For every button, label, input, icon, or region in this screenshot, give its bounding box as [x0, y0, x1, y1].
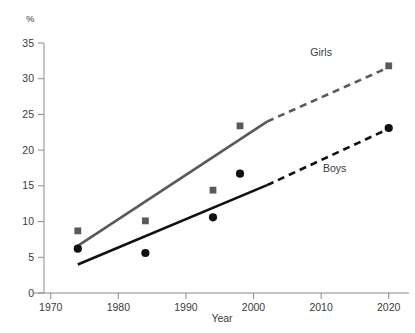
data-point-girls [237, 122, 244, 129]
series-label-girls: Girls [310, 46, 332, 58]
trend-line-dashed-girls [267, 67, 389, 121]
data-point-girls [74, 227, 81, 234]
y-tick-label: 30 [22, 72, 34, 84]
x-axis-title: Year [211, 312, 233, 324]
trend-line-solid-girls [78, 122, 267, 246]
series-labels-group: GirlsBoys [310, 46, 346, 174]
data-point-boys [74, 245, 82, 253]
x-tick-label: 1980 [107, 301, 131, 313]
data-point-girls [142, 217, 149, 224]
x-tick-label: 1990 [174, 301, 198, 313]
data-point-girls [385, 62, 392, 69]
y-axis-ticks: 05101520253035 [22, 37, 44, 299]
y-tick-label: 10 [22, 215, 34, 227]
y-tick-label: 20 [22, 144, 34, 156]
trend-line-dashed-boys [267, 129, 389, 185]
x-tick-label: 2020 [377, 301, 401, 313]
scatter-chart: % 05101520253035 19701980199020002010202… [0, 0, 415, 333]
y-tick-label: 25 [22, 108, 34, 120]
data-point-boys [385, 124, 393, 132]
x-tick-label: 2000 [242, 301, 266, 313]
data-markers-group [74, 62, 393, 257]
x-tick-label: 1970 [39, 301, 63, 313]
y-tick-label: 15 [22, 179, 34, 191]
data-point-boys [236, 170, 244, 178]
data-point-girls [210, 187, 217, 194]
y-tick-label: 0 [28, 287, 34, 299]
chart-container: % 05101520253035 19701980199020002010202… [0, 0, 415, 333]
y-tick-label: 35 [22, 37, 34, 49]
data-point-boys [141, 249, 149, 257]
x-tick-label: 2010 [309, 301, 333, 313]
x-axis-ticks: 197019801990200020102020 [39, 293, 400, 313]
trend-line-solid-boys [78, 185, 267, 264]
y-tick-label: 5 [28, 251, 34, 263]
data-point-boys [209, 213, 217, 221]
y-axis-unit-label: % [26, 13, 35, 24]
series-label-boys: Boys [323, 162, 346, 174]
